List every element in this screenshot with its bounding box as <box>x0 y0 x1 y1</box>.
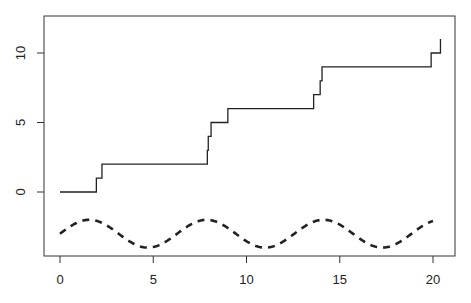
x-tick-label: 5 <box>150 272 157 287</box>
step-series-line <box>60 39 440 192</box>
y-axis: 0510 <box>13 46 44 196</box>
x-tick-label: 10 <box>239 272 253 287</box>
x-tick-label: 0 <box>56 272 63 287</box>
y-tick-label: 0 <box>13 188 28 195</box>
plot-svg: 05101520 0510 <box>0 0 471 303</box>
x-tick-label: 15 <box>333 272 347 287</box>
y-tick-label: 10 <box>13 46 28 60</box>
plot-box <box>44 16 455 256</box>
chart: 05101520 0510 <box>0 0 471 303</box>
x-axis: 05101520 <box>56 256 440 287</box>
y-tick-label: 5 <box>13 119 28 126</box>
sine-series-dashed-line <box>60 220 433 248</box>
x-tick-label: 20 <box>426 272 440 287</box>
